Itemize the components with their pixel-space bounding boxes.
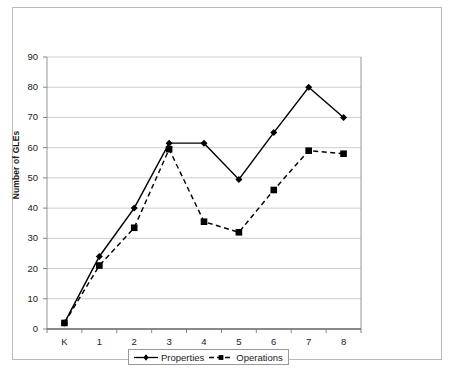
data-point-marker [166, 140, 173, 147]
data-point-marker [131, 224, 138, 231]
y-tick-label: 10 [16, 293, 38, 304]
x-tick-label: 8 [334, 336, 354, 347]
y-tick-label: 40 [16, 202, 38, 213]
data-point-marker [166, 146, 173, 153]
legend-label-properties: Properties [161, 352, 204, 363]
data-point-marker [201, 218, 208, 225]
data-point-marker [236, 229, 243, 236]
y-tick-label: 90 [16, 51, 38, 62]
series-line-operations [64, 149, 343, 323]
y-tick-label: 0 [16, 323, 38, 334]
y-tick-label: 30 [16, 232, 38, 243]
plot-area [0, 0, 452, 376]
legend-label-operations: Operations [236, 352, 282, 363]
chart-figure: Number of GLEs 0102030405060708090K12345… [0, 0, 452, 376]
data-point-marker [96, 262, 103, 269]
x-tick-label: 7 [299, 336, 319, 347]
data-point-marker [340, 150, 347, 157]
chart-legend: Properties Operations [128, 349, 289, 365]
x-tick-label: 3 [159, 336, 179, 347]
y-tick-label: 60 [16, 142, 38, 153]
y-tick-label: 70 [16, 111, 38, 122]
y-tick-label: 80 [16, 81, 38, 92]
y-tick-label: 20 [16, 263, 38, 274]
x-tick-label: 1 [89, 336, 109, 347]
legend-swatch-operations [209, 353, 233, 362]
data-point-marker [61, 320, 68, 327]
x-tick-label: K [54, 336, 74, 347]
legend-swatch-properties [134, 353, 158, 362]
x-tick-label: 2 [124, 336, 144, 347]
series-line-properties [64, 87, 343, 323]
data-point-marker [270, 187, 277, 194]
legend-item-operations: Operations [209, 352, 282, 363]
x-tick-label: 6 [264, 336, 284, 347]
x-tick-label: 4 [194, 336, 214, 347]
data-point-marker [305, 147, 312, 154]
x-tick-label: 5 [229, 336, 249, 347]
legend-item-properties: Properties [134, 352, 204, 363]
y-tick-label: 50 [16, 172, 38, 183]
